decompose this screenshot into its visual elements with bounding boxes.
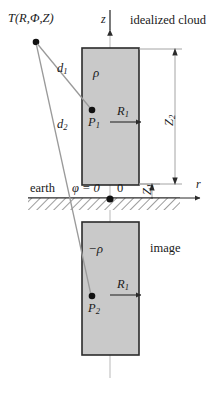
- distance-d1-label: d1: [57, 62, 68, 76]
- height-z2-subscript: 2: [167, 115, 177, 119]
- origin-label: 0: [117, 182, 123, 195]
- distance-d2-subscript: 2: [63, 122, 67, 132]
- point-p2-label: P2: [88, 302, 100, 316]
- height-z1-symbol: Z: [140, 188, 154, 195]
- earth-label: earth: [30, 182, 55, 195]
- point-p1-label: P1: [88, 116, 100, 130]
- z-axis-label: z: [101, 13, 106, 25]
- point-p1-dot: [89, 107, 96, 114]
- height-z2-symbol: Z: [162, 119, 176, 126]
- radius-r1-lower-symbol: R: [117, 277, 125, 291]
- distance-d2-label: d2: [57, 118, 68, 132]
- observation-point-label: T(R,Φ,Z): [8, 12, 54, 25]
- diagram-canvas: T(R,Φ,Z) z r idealized cloud image earth…: [0, 0, 212, 395]
- r-axis-label: r: [196, 178, 201, 190]
- point-p2-dot: [89, 293, 96, 300]
- height-z1-label: Z1: [141, 184, 155, 195]
- image-label: image: [150, 242, 181, 255]
- height-z2-label: Z2: [163, 115, 177, 126]
- earth-hatched-band: [28, 198, 180, 210]
- radius-r1-lower-subscript: 1: [125, 282, 129, 292]
- height-z1-subscript: 1: [145, 184, 155, 188]
- diagram-svg: [0, 0, 212, 395]
- point-p2-subscript: 2: [96, 306, 100, 316]
- distance-d1-subscript: 1: [63, 66, 67, 76]
- radius-r1-upper-label: R1: [117, 105, 129, 119]
- origin-dot: [106, 195, 113, 202]
- radius-r1-upper-subscript: 1: [125, 109, 129, 119]
- charge-density-lower-label: −ρ: [88, 242, 103, 255]
- radius-r1-upper-symbol: R: [117, 104, 125, 118]
- point-p2-symbol: P: [88, 301, 96, 315]
- point-p1-subscript: 1: [96, 120, 100, 130]
- charge-density-upper-label: ρ: [93, 66, 99, 79]
- point-p1-symbol: P: [88, 115, 96, 129]
- phi-zero-label: φ = 0: [72, 182, 100, 195]
- radius-r1-lower-label: R1: [117, 278, 129, 292]
- idealized-cloud-label: idealized cloud: [130, 14, 206, 27]
